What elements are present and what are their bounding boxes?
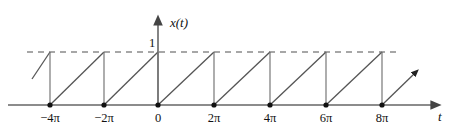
x-tick-label-minus-2pi: −2π bbox=[94, 112, 114, 125]
ramp-segment bbox=[270, 52, 326, 105]
ramp-segment bbox=[158, 52, 214, 105]
x-tick-label-minus-4pi: −4π bbox=[40, 112, 60, 125]
x-tick-label-zero: 0 bbox=[155, 112, 161, 125]
ramp-continuation-arrow bbox=[382, 74, 414, 105]
tick-dot bbox=[211, 102, 216, 107]
y-axis-label: x(t) bbox=[170, 16, 188, 29]
plot-canvas bbox=[0, 0, 461, 132]
ramp-segment bbox=[214, 52, 270, 105]
x-tick-label-2pi: 2π bbox=[208, 112, 221, 125]
tick-dot bbox=[323, 102, 328, 107]
tick-dot bbox=[101, 102, 106, 107]
ramp-segment bbox=[326, 52, 382, 105]
sawtooth-waveform-figure: x(t) 1 t −4π −2π 0 2π 4π 6π 8π bbox=[0, 0, 461, 132]
amplitude-label: 1 bbox=[149, 37, 155, 50]
x-tick-label-6pi: 6π bbox=[320, 112, 333, 125]
waveform-drops bbox=[50, 52, 382, 105]
tick-dot bbox=[379, 102, 384, 107]
x-tick-label-8pi: 8π bbox=[376, 112, 389, 125]
waveform-ramps bbox=[32, 52, 382, 105]
x-tick-label-4pi: 4π bbox=[264, 112, 277, 125]
tick-dot bbox=[47, 102, 52, 107]
ramp-segment bbox=[104, 52, 158, 105]
tick-dot bbox=[267, 102, 272, 107]
x-axis-label: t bbox=[438, 110, 442, 123]
tick-dot bbox=[155, 102, 160, 107]
ramp-segment bbox=[50, 52, 104, 105]
ramp-partial-left bbox=[32, 52, 50, 79]
